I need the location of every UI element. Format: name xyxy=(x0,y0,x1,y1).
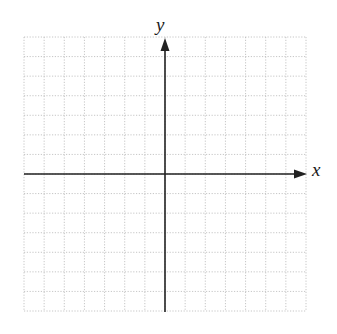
y-axis-arrow-icon xyxy=(161,38,170,51)
y-axis-label: y xyxy=(156,15,164,34)
x-axis-label: x xyxy=(312,160,320,179)
coordinate-plane xyxy=(0,0,337,334)
x-axis-arrow-icon xyxy=(294,170,307,179)
